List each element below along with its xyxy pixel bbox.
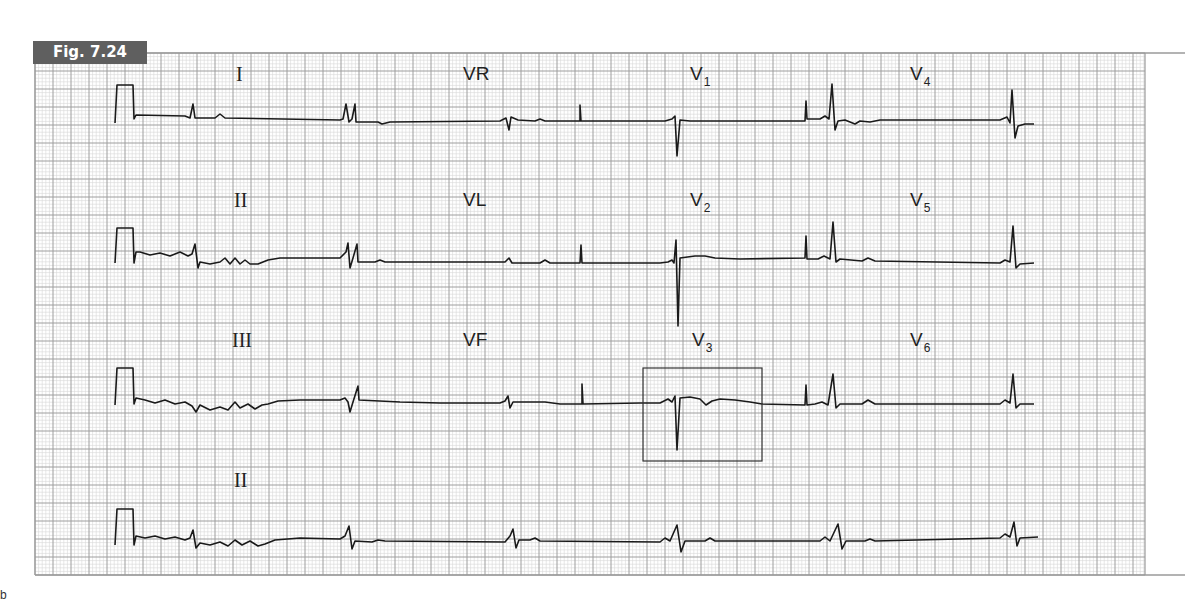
lead-label-subscript: 5 — [924, 201, 931, 215]
ecg-figure: Fig. 7.24 IVRV1V4IIVLV2V5IIIVFV3V6II b — [0, 0, 1190, 604]
lead-label-text: V — [910, 189, 923, 210]
lead-label-text: VL — [463, 189, 486, 210]
lead-label-v3: V3 — [692, 330, 712, 354]
ecg-traces — [115, 84, 1038, 552]
lead-label-vr: VR — [463, 64, 489, 83]
panel-letter: b — [0, 588, 7, 602]
lead-label-text: II — [234, 189, 247, 211]
figure-number-badge: Fig. 7.24 — [33, 41, 147, 64]
lead-label-iii: III — [232, 330, 252, 350]
lead-label-v2: V2 — [690, 190, 710, 214]
lead-label-text: VR — [463, 63, 489, 84]
lead-label-v5: V5 — [910, 190, 930, 214]
lead-label-subscript: 2 — [704, 201, 711, 215]
lead-label-subscript: 6 — [924, 341, 931, 355]
lead-label-vf: VF — [463, 330, 487, 349]
lead-label-text: III — [232, 329, 252, 351]
lead-label-ii-rhythm: II — [234, 470, 247, 490]
lead-label-text: VF — [463, 329, 487, 350]
lead-label-subscript: 1 — [704, 75, 711, 89]
lead-label-v1: V1 — [690, 64, 710, 88]
lead-label-subscript: 4 — [924, 75, 931, 89]
lead-label-vl: VL — [463, 190, 486, 209]
lead-label-text: I — [236, 63, 243, 85]
lead-label-subscript: 3 — [706, 341, 713, 355]
ecg-grid-and-traces — [0, 0, 1190, 604]
lead-label-text: V — [692, 329, 705, 350]
lead-label-text: V — [910, 63, 923, 84]
lead-label-text: V — [690, 63, 703, 84]
lead-label-text: II — [234, 469, 247, 491]
ecg-grid-minor-lines — [35, 53, 1145, 575]
lead-label-i: I — [236, 64, 243, 84]
lead-label-ii: II — [234, 190, 247, 210]
lead-label-v6: V6 — [910, 330, 930, 354]
lead-label-text: V — [690, 189, 703, 210]
lead-label-v4: V4 — [910, 64, 930, 88]
lead-label-text: V — [910, 329, 923, 350]
ecg-trace-row-4 — [115, 509, 1038, 552]
